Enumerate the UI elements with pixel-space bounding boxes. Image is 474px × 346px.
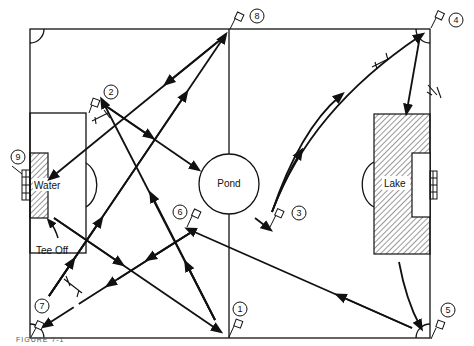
stance-mark-7 bbox=[64, 276, 82, 297]
hole-8: 8 bbox=[250, 9, 264, 23]
corner-arc-tr bbox=[416, 29, 430, 43]
tee-off: Tee Off bbox=[36, 222, 68, 256]
svg-text:4: 4 bbox=[453, 15, 458, 25]
flag-2 bbox=[89, 98, 100, 113]
figure-caption: FIGURE 7-1 bbox=[16, 336, 65, 343]
flag-9 bbox=[12, 166, 22, 174]
lake-hazard: Lake bbox=[374, 114, 437, 254]
svg-text:1: 1 bbox=[237, 304, 242, 314]
flag-7 bbox=[31, 321, 44, 337]
water-label: Water bbox=[34, 180, 61, 191]
hole-5: 5 bbox=[441, 303, 455, 317]
hole-6: 6 bbox=[173, 205, 187, 219]
stance-mark-4b bbox=[427, 85, 441, 98]
flag-5 bbox=[431, 320, 445, 339]
tee-off-label: Tee Off bbox=[36, 245, 68, 256]
corner-arc-tl bbox=[30, 29, 44, 43]
flag-6 bbox=[187, 209, 201, 227]
svg-text:9: 9 bbox=[15, 152, 20, 162]
flag-4 bbox=[431, 11, 444, 28]
left-penalty-arc bbox=[86, 163, 97, 207]
hole-4: 4 bbox=[449, 13, 463, 27]
hole-2: 2 bbox=[104, 85, 118, 99]
svg-text:7: 7 bbox=[39, 301, 44, 311]
hole-1: 1 bbox=[233, 302, 247, 316]
flag-1 bbox=[229, 319, 243, 337]
flag-8 bbox=[230, 12, 244, 29]
course-diagram: Pond Water Lake Tee Off bbox=[0, 0, 474, 346]
path-4-to-lake bbox=[407, 36, 420, 110]
goal-left bbox=[22, 170, 30, 200]
svg-text:3: 3 bbox=[296, 208, 301, 218]
svg-text:5: 5 bbox=[445, 305, 450, 315]
right-penalty-arc bbox=[362, 162, 374, 207]
pond: Pond bbox=[199, 154, 259, 214]
corner-arc-br bbox=[416, 324, 430, 338]
svg-text:6: 6 bbox=[177, 207, 182, 217]
hole-3: 3 bbox=[292, 206, 306, 220]
pond-label: Pond bbox=[217, 178, 240, 189]
water-hazard: Water bbox=[22, 153, 63, 218]
hole-9: 9 bbox=[11, 150, 25, 164]
svg-text:2: 2 bbox=[108, 87, 113, 97]
hole-7: 7 bbox=[35, 299, 49, 313]
lake-label: Lake bbox=[384, 178, 406, 189]
path-lake-to-5 bbox=[399, 262, 420, 326]
svg-text:8: 8 bbox=[254, 11, 259, 21]
path-pond-to-3 bbox=[255, 218, 268, 228]
goal-right bbox=[430, 171, 437, 199]
